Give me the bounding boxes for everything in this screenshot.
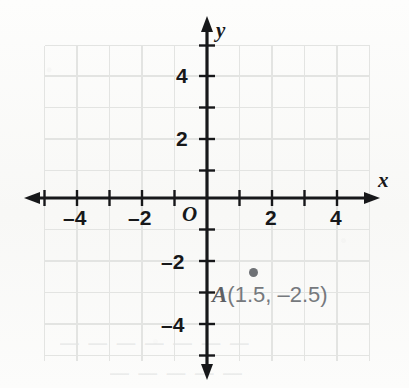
x-axis-right-arrowhead <box>364 192 380 204</box>
y-axis-up-arrowhead <box>201 16 213 32</box>
point-a-name: A <box>212 282 227 307</box>
y-axis-down-arrowhead <box>201 364 213 380</box>
y-axis-name: y <box>216 20 225 41</box>
y-tick-label-neg2: –2 <box>161 251 184 272</box>
y-tick-label-2: 2 <box>176 128 188 149</box>
y-tick-label-neg4: –4 <box>161 314 184 335</box>
y-tick-label-4: 4 <box>176 65 188 86</box>
x-tick-label-neg2: –2 <box>128 207 151 228</box>
x-tick-label-4: 4 <box>330 207 342 228</box>
x-tick-label-neg4: –4 <box>63 207 86 228</box>
axes <box>0 0 409 388</box>
x-axis-name: x <box>378 170 389 191</box>
coordinate-plane-figure: — — — — — — — — — — — — <box>0 0 409 388</box>
origin-label: O <box>182 204 197 225</box>
x-axis-left-arrowhead <box>24 192 40 204</box>
point-a-coordinates: (1.5, –2.5) <box>227 282 327 307</box>
point-a-marker <box>249 268 258 277</box>
point-a-label: A(1.5, –2.5) <box>212 283 328 306</box>
x-tick-label-2: 2 <box>265 207 277 228</box>
